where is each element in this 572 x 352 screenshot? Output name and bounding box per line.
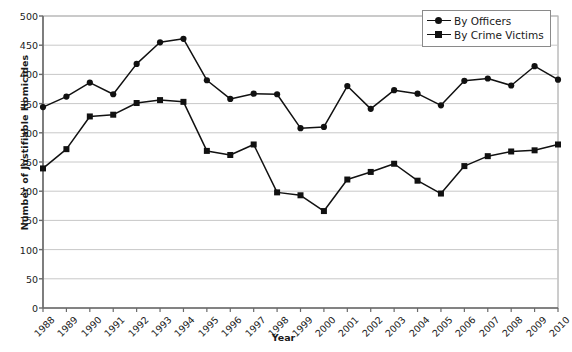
legend-item-by-crime-victims[interactable]: By Crime Victims bbox=[427, 28, 544, 42]
circle-marker-icon bbox=[427, 15, 451, 27]
legend-label-by-officers: By Officers bbox=[451, 15, 511, 27]
x-axis-title: Year bbox=[0, 332, 567, 343]
chart-legend: By Officers By Crime Victims bbox=[422, 10, 551, 47]
square-marker-icon bbox=[427, 29, 451, 41]
legend-label-by-crime-victims: By Crime Victims bbox=[451, 29, 544, 41]
legend-item-by-officers[interactable]: By Officers bbox=[427, 14, 544, 28]
